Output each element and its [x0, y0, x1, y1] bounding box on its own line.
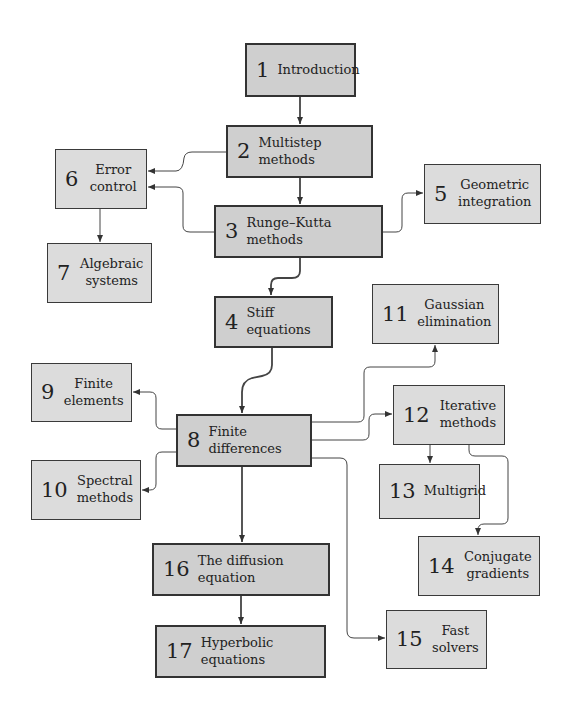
node-introduction[interactable]: 1 Introduction [245, 43, 356, 97]
node-number: 4 [216, 312, 246, 333]
edges-layer [0, 0, 577, 715]
edge-4-8 [242, 348, 272, 413]
node-label: Algebraic systems [78, 256, 151, 290]
node-spectral-methods[interactable]: 10 Spectral methods [31, 460, 141, 520]
edge-3-5 [383, 193, 423, 232]
node-number: 1 [247, 60, 277, 81]
node-label: Iterative methods [438, 398, 504, 432]
node-conjugate-gradients[interactable]: 14 Conjugate gradients [418, 536, 540, 596]
node-label: Stiff equations [246, 305, 331, 339]
edge-3-6 [148, 187, 214, 232]
edge-8-10 [142, 452, 176, 490]
node-label: Spectral methods [76, 473, 140, 507]
node-geometric-integration[interactable]: 5 Geometric integration [424, 164, 541, 224]
node-number: 6 [56, 169, 86, 190]
node-label: Gaussian elimination [417, 297, 498, 331]
node-hyperbolic-equations[interactable]: 17 Hyperbolic equations [155, 625, 326, 678]
node-number: 8 [178, 430, 208, 451]
node-finite-differences[interactable]: 8 Finite differences [176, 414, 312, 467]
node-fast-solvers[interactable]: 15 Fast solvers [386, 610, 487, 669]
node-label: Multigrid [424, 483, 492, 500]
node-label: Hyperbolic equations [201, 635, 324, 669]
node-label: Fast solvers [431, 623, 486, 657]
edge-8-9 [133, 392, 176, 429]
node-error-control[interactable]: 6 Error control [55, 149, 147, 209]
node-gaussian-elimination[interactable]: 11 Gaussian elimination [372, 284, 499, 344]
node-number: 10 [32, 480, 76, 501]
node-algebraic-systems[interactable]: 7 Algebraic systems [47, 243, 152, 303]
node-label: Conjugate gradients [463, 549, 539, 583]
node-label: The diffusion equation [198, 553, 328, 587]
node-number: 5 [425, 184, 455, 205]
node-number: 7 [48, 263, 78, 284]
node-label: Error control [86, 162, 146, 196]
node-label: Finite elements [62, 376, 131, 410]
node-diffusion-equation[interactable]: 16 The diffusion equation [152, 543, 330, 596]
node-number: 12 [394, 405, 438, 426]
node-number: 17 [157, 641, 201, 662]
node-number: 9 [32, 382, 62, 403]
edge-3-4 [271, 258, 300, 295]
edge-8-12 [312, 414, 392, 440]
node-finite-elements[interactable]: 9 Finite elements [31, 363, 132, 422]
node-number: 14 [419, 556, 463, 577]
node-number: 3 [216, 221, 246, 242]
node-runge-kutta-methods[interactable]: 3 Runge–Kutta methods [214, 205, 383, 258]
node-multistep-methods[interactable]: 2 Multistep methods [226, 125, 373, 178]
edge-2-6 [148, 152, 226, 171]
node-number: 13 [380, 481, 424, 502]
node-number: 11 [373, 304, 417, 325]
node-number: 2 [228, 141, 258, 162]
node-iterative-methods[interactable]: 12 Iterative methods [393, 385, 505, 445]
node-number: 15 [387, 629, 431, 650]
node-label: Geometric integration [455, 177, 540, 211]
node-label: Multistep methods [258, 135, 371, 169]
node-label: Introduction [277, 62, 365, 79]
node-stiff-equations[interactable]: 4 Stiff equations [214, 296, 333, 348]
node-multigrid[interactable]: 13 Multigrid [379, 464, 480, 519]
node-label: Finite differences [208, 424, 310, 458]
node-label: Runge–Kutta methods [246, 215, 381, 249]
node-number: 16 [154, 559, 198, 580]
